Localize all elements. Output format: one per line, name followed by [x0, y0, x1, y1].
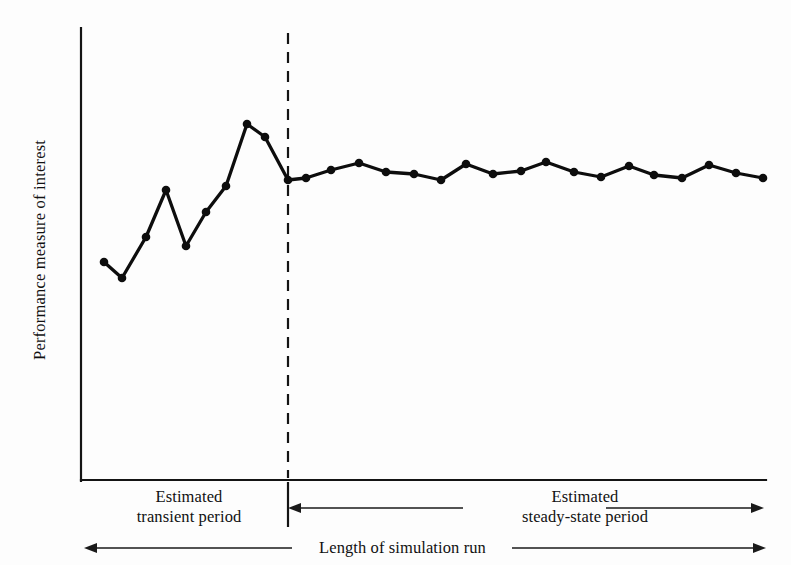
data-point: [437, 176, 446, 185]
y-axis-label: Performance measure of interest: [30, 140, 49, 360]
data-point: [705, 161, 714, 170]
steady-state-period-label: Estimated steady-state period: [470, 487, 700, 527]
data-point: [732, 169, 741, 178]
run-length-label: Length of simulation run: [295, 538, 510, 558]
data-point: [118, 274, 127, 283]
data-point: [202, 208, 211, 217]
steady-state-period-line1: Estimated: [552, 487, 619, 506]
data-point: [517, 167, 526, 176]
data-point: [542, 158, 551, 167]
chart-canvas: Performance measure of interest: [0, 0, 791, 565]
performance-series-line: [104, 124, 763, 278]
data-point: [382, 168, 391, 177]
data-point: [570, 168, 579, 177]
data-point: [759, 174, 768, 183]
data-point: [462, 160, 471, 169]
data-point: [284, 176, 293, 185]
data-point: [261, 133, 270, 142]
data-point: [222, 182, 231, 191]
transient-period-label: Estimated transient period: [96, 487, 282, 527]
performance-series-points: [100, 120, 768, 283]
data-point: [327, 166, 336, 175]
data-point: [678, 174, 687, 183]
data-point: [355, 159, 364, 168]
figure-container: Performance measure of interest: [0, 0, 791, 565]
data-point: [489, 170, 498, 179]
transient-period-line1: Estimated: [156, 487, 223, 506]
transient-period-line2: transient period: [137, 507, 242, 526]
data-point: [182, 242, 191, 251]
data-point: [100, 258, 109, 267]
data-point: [243, 120, 252, 129]
steady-state-period-line2: steady-state period: [522, 507, 648, 526]
data-point: [142, 233, 151, 242]
data-point: [162, 186, 171, 195]
data-point: [302, 174, 311, 183]
data-point: [625, 162, 634, 171]
data-point: [650, 171, 659, 180]
data-point: [597, 173, 606, 182]
data-point: [410, 170, 419, 179]
